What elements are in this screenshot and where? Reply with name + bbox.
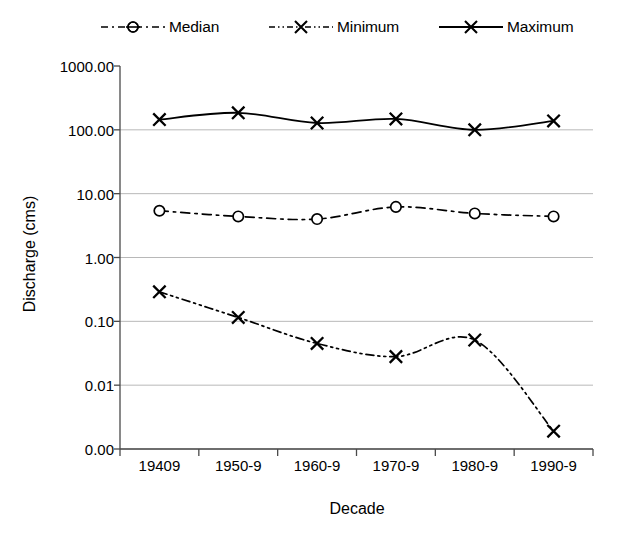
x-axis-title: Decade: [120, 500, 594, 518]
data-point-median-1980-9: [470, 208, 480, 218]
y-axis-tick-label: 100.00: [34, 121, 114, 138]
x-axis-tick-label: 1960-9: [294, 457, 341, 474]
data-point-minimum-1960-9: [311, 337, 323, 349]
y-axis-tick-label: 0.01: [34, 377, 114, 394]
y-axis-title: Discharge (cms): [21, 144, 39, 364]
x-axis-tick-label: 1990-9: [530, 457, 577, 474]
y-axis-tick-label: 1000.00: [34, 58, 114, 75]
y-axis-tick-labels: 1000.00100.0010.001.000.100.010.00: [28, 0, 114, 549]
data-point-median-19409: [154, 206, 164, 216]
series-line-median: [159, 207, 553, 220]
chart-container: Median Minimum Maximum 1000.00100.001: [0, 0, 620, 549]
series-line-maximum: [159, 113, 553, 130]
x-axis-tick-label: 1970-9: [373, 457, 420, 474]
data-point-minimum-1990-9: [547, 425, 559, 437]
y-axis-tick-label: 10.00: [34, 185, 114, 202]
data-point-minimum-1980-9: [469, 334, 481, 346]
data-point-median-1960-9: [312, 214, 322, 224]
x-axis-tick-label: 1950-9: [215, 457, 262, 474]
series-line-minimum: [159, 292, 553, 431]
data-point-minimum-19409: [153, 286, 165, 298]
y-axis-tick-label: 1.00: [34, 249, 114, 266]
data-point-median-1950-9: [233, 211, 243, 221]
y-axis-tick-label: 0.00: [34, 441, 114, 458]
x-axis-tick-label: 1980-9: [451, 457, 498, 474]
x-axis-tick-label: 19409: [139, 457, 181, 474]
y-axis-tick-label: 0.10: [34, 313, 114, 330]
data-point-median-1990-9: [548, 211, 558, 221]
data-point-median-1970-9: [391, 202, 401, 212]
